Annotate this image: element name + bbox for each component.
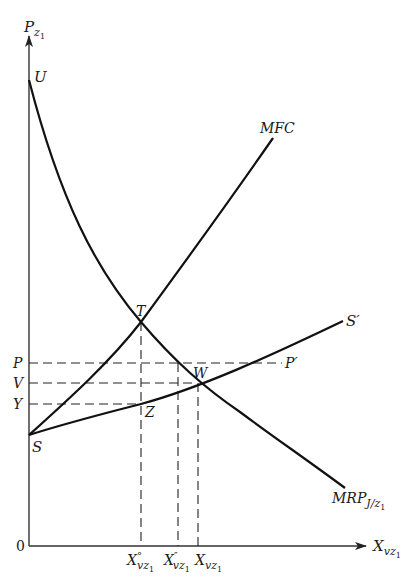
supply-end-label: S′ bbox=[346, 312, 360, 330]
price-p-prime-label: P′ bbox=[284, 355, 298, 371]
supply-curve bbox=[29, 321, 343, 435]
point-u-label: U bbox=[34, 68, 48, 86]
quantity-x2-label: X″vz1 bbox=[163, 550, 190, 574]
x-axis-label: Xvz1 bbox=[372, 537, 401, 560]
mrp-label: MRPJ/z1 bbox=[331, 490, 385, 512]
point-s-label: S bbox=[32, 438, 42, 456]
mfc-label: MFC bbox=[259, 120, 295, 136]
price-p-label: P bbox=[12, 355, 23, 371]
mfc-curve bbox=[29, 138, 273, 435]
price-y-label: Y bbox=[13, 396, 24, 412]
point-z-label: Z bbox=[144, 404, 155, 420]
quantity-x-label: Xvz1 bbox=[194, 552, 222, 574]
point-w-label: W bbox=[193, 365, 209, 381]
y-axis-label: Pz1 bbox=[23, 18, 45, 41]
origin-label: 0 bbox=[16, 538, 25, 554]
quantity-x0-label: X°vz1 bbox=[126, 550, 154, 574]
mrp-curve bbox=[29, 80, 345, 488]
price-v-label: V bbox=[13, 375, 25, 391]
monopsony-diagram: Pz1 Xvz1 0 U S MFC S′ MRPJ/z1 T W Z P V … bbox=[0, 0, 410, 579]
